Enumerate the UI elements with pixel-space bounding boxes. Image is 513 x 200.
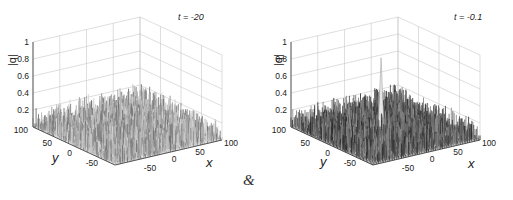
separator-ampersand: &: [243, 172, 255, 189]
svg-text:-50: -50: [86, 158, 99, 168]
svg-text:50: 50: [301, 138, 311, 148]
surface-plot-left: 1 0.8 0.6 0.4 0.2 |q| 100 50 0 -50 y -50…: [0, 0, 256, 175]
svg-text:100: 100: [272, 125, 286, 135]
x-axis-label: x: [205, 155, 213, 170]
plot-title: t = -0.1: [454, 12, 482, 22]
svg-text:50: 50: [43, 138, 53, 148]
svg-text:1: 1: [282, 37, 287, 47]
svg-text:1: 1: [24, 37, 29, 47]
svg-text:0: 0: [430, 154, 435, 164]
svg-text:0.2: 0.2: [275, 105, 287, 115]
z-ticks: 1 0.8 0.6 0.4 0.2: [17, 37, 29, 115]
svg-text:-50: -50: [344, 158, 357, 168]
y-axis-label: y: [51, 150, 60, 165]
surface-plot-right: 1 0.8 0.6 0.4 0.2 |q| 100 50 0 -50 y -50…: [258, 0, 513, 175]
plot-title: t = -20: [178, 12, 204, 22]
svg-text:-50: -50: [402, 163, 415, 173]
surface-noise: [33, 84, 222, 165]
svg-text:0: 0: [67, 148, 72, 158]
svg-text:0.8: 0.8: [17, 54, 29, 64]
z-axis-label: |q|: [272, 54, 284, 66]
x-axis-label: x: [467, 156, 475, 171]
svg-text:0.6: 0.6: [17, 71, 29, 81]
svg-text:100: 100: [224, 138, 238, 148]
svg-text:0.2: 0.2: [17, 105, 29, 115]
svg-text:0.4: 0.4: [17, 88, 29, 98]
svg-text:100: 100: [14, 125, 28, 135]
svg-text:50: 50: [453, 147, 463, 157]
svg-text:0: 0: [172, 154, 177, 164]
svg-text:0.6: 0.6: [275, 71, 287, 81]
svg-text:0.4: 0.4: [275, 88, 287, 98]
plot-panel-t-minus-0-1: 1 0.8 0.6 0.4 0.2 |q| 100 50 0 -50 y -50…: [258, 0, 513, 175]
z-ticks: 1 0.8 0.6 0.4 0.2: [275, 37, 287, 115]
plot-panel-t-minus-20: 1 0.8 0.6 0.4 0.2 |q| 100 50 0 -50 y -50…: [0, 0, 256, 175]
surface-noise: [291, 58, 480, 165]
svg-text:50: 50: [195, 147, 205, 157]
z-axis-label: |q|: [6, 54, 18, 66]
svg-text:-50: -50: [144, 163, 157, 173]
svg-text:100: 100: [482, 138, 496, 148]
